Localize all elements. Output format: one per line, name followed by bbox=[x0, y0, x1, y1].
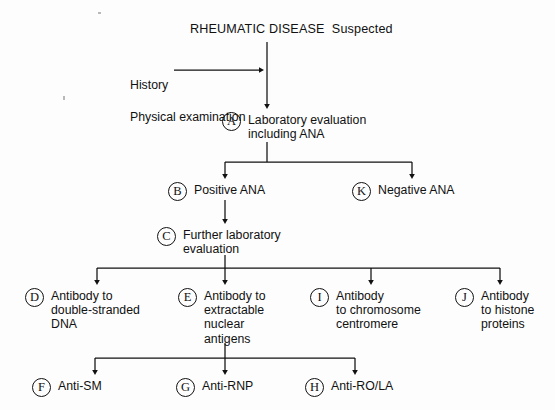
node-g-badge: G bbox=[176, 378, 195, 397]
history-line: History bbox=[130, 77, 246, 93]
node-g[interactable]: G Anti-RNP bbox=[176, 378, 253, 397]
node-k-badge: K bbox=[352, 182, 371, 201]
node-k-label: Negative ANA bbox=[378, 182, 455, 197]
node-f[interactable]: F Anti-SM bbox=[32, 378, 102, 397]
scan-speck-top bbox=[98, 12, 101, 14]
node-d-label: Antibody to double-stranded DNA bbox=[51, 288, 140, 332]
node-f-label: Anti-SM bbox=[58, 378, 102, 393]
node-a-badge: A bbox=[222, 112, 241, 131]
node-h[interactable]: H Anti-RO/LA bbox=[305, 378, 393, 397]
node-i[interactable]: I Antibody to chromosome centromere bbox=[310, 288, 421, 332]
node-b-badge: B bbox=[168, 182, 187, 201]
node-j-badge: J bbox=[455, 288, 474, 307]
node-c-label: Further laboratory evaluation bbox=[183, 227, 281, 256]
node-e-label: Antibody to extractable nuclear antigens bbox=[204, 288, 266, 346]
node-g-label: Anti-RNP bbox=[202, 378, 253, 393]
node-e[interactable]: E Antibody to extractable nuclear antige… bbox=[178, 288, 266, 346]
node-c-badge: C bbox=[157, 227, 176, 246]
node-b-label: Positive ANA bbox=[194, 182, 265, 197]
node-c[interactable]: C Further laboratory evaluation bbox=[157, 227, 281, 256]
node-i-label: Antibody to chromosome centromere bbox=[336, 288, 421, 332]
node-b[interactable]: B Positive ANA bbox=[168, 182, 265, 201]
node-f-badge: F bbox=[32, 378, 51, 397]
scan-speck-left bbox=[63, 96, 65, 100]
node-h-label: Anti-RO/LA bbox=[331, 378, 393, 393]
node-e-badge: E bbox=[178, 288, 197, 307]
node-j[interactable]: J Antibody to histone proteins bbox=[455, 288, 534, 332]
node-k[interactable]: K Negative ANA bbox=[352, 182, 455, 201]
node-d-badge: D bbox=[25, 288, 44, 307]
node-h-badge: H bbox=[305, 378, 324, 397]
node-i-badge: I bbox=[310, 288, 329, 307]
page-title: RHEUMATIC DISEASE Suspected bbox=[190, 22, 393, 36]
node-j-label: Antibody to histone proteins bbox=[481, 288, 534, 332]
flowchart-connectors bbox=[0, 0, 555, 410]
flowchart-canvas: RHEUMATIC DISEASE Suspected History Phys… bbox=[0, 0, 555, 410]
node-a-label: Laboratory evaluation including ANA bbox=[248, 112, 366, 141]
node-a[interactable]: A Laboratory evaluation including ANA bbox=[222, 112, 366, 141]
node-d[interactable]: D Antibody to double-stranded DNA bbox=[25, 288, 140, 332]
